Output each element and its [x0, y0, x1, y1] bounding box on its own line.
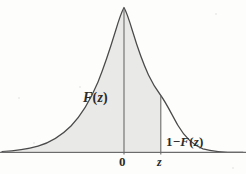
area-label-Fz-F: F	[83, 90, 93, 105]
paper-speck	[215, 13, 217, 15]
area-label-Fz-close: )	[103, 90, 108, 105]
area-label-one-minus-Fz-prefix: 1−	[166, 134, 180, 149]
paper-speck	[79, 86, 81, 88]
paper-speck	[18, 97, 20, 99]
normal-distribution-figure: F(z) 1−F(z) 0 z	[0, 0, 246, 174]
paper-speck	[33, 142, 35, 144]
x-axis-tick-label-zero: 0	[119, 155, 126, 168]
x-axis-tick-label-z: z	[157, 156, 162, 168]
area-label-one-minus-Fz-close: )	[199, 134, 204, 149]
area-label-one-minus-Fz: 1−F(z)	[166, 135, 204, 148]
area-label-one-minus-Fz-F: F	[180, 134, 189, 149]
shaded-area-Fz	[2, 8, 161, 152]
paper-speck	[232, 167, 234, 169]
distribution-plot	[0, 0, 246, 174]
area-label-Fz: F(z)	[83, 91, 108, 105]
